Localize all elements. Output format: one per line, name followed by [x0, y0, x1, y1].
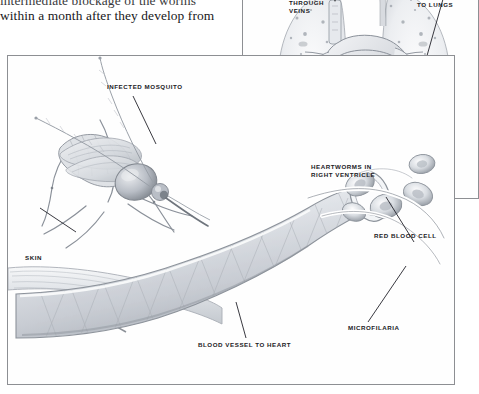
- body-text-line: within a month after they develop from: [0, 8, 240, 24]
- label-microfilaria: MICROFILARIA: [348, 324, 400, 332]
- blood-vessel-leader: [236, 302, 246, 338]
- label-blood-vessel-to-heart: BLOOD VESSEL TO HEART: [198, 341, 291, 349]
- main-illustration-panel: INFECTED MOSQUITO SKIN RED BLOOD CELL MI…: [7, 55, 455, 385]
- label-to-lungs: TO LUNGS: [417, 1, 453, 9]
- label-heartworms-right-ventricle: HEARTWORMS IN RIGHT VENTRICLE: [311, 163, 375, 178]
- infected-mosquito-leader: [133, 96, 156, 144]
- microfilaria-leader: [368, 266, 406, 322]
- label-skin: SKIN: [25, 254, 42, 262]
- label-infected-mosquito: INFECTED MOSQUITO: [107, 83, 183, 91]
- label-through-veins: THROUGH VEINS: [289, 0, 324, 14]
- figure-page: intermediate blockage of the worms withi…: [0, 0, 479, 394]
- skin-leader: [40, 208, 76, 232]
- label-red-blood-cell: RED BLOOD CELL: [374, 232, 437, 240]
- body-text-line-cropped: intermediate blockage of the worms: [0, 0, 236, 8]
- main-illustration: [8, 56, 455, 385]
